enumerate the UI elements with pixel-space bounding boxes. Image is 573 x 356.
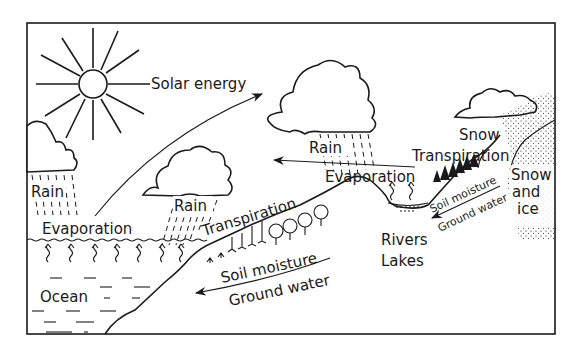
evaporation-ocean-label: Evaporation xyxy=(42,220,132,238)
transpiration-middle-label: Transpiration xyxy=(199,194,298,240)
snow-label: Snow xyxy=(459,126,499,144)
evaporation-lake-label: Evaporation xyxy=(325,168,415,186)
rain-right-label: Rain xyxy=(309,139,342,157)
lakes-label: Lakes xyxy=(381,252,424,270)
ocean-surface xyxy=(27,239,207,241)
cloud-upper xyxy=(268,60,376,134)
solar-energy-label: Solar energy xyxy=(151,75,246,93)
snow-and-ice-label-3: ice xyxy=(517,200,539,218)
sun-icon xyxy=(36,28,150,140)
transpiration-right-label: Transpiration xyxy=(411,147,509,165)
rain-left-label: Rain xyxy=(31,183,64,201)
water-cycle-diagram: Solar energy Rain Rain Rain xyxy=(0,0,573,356)
evaporation-flow-arrow xyxy=(274,160,415,167)
ocean-label: Ocean xyxy=(40,288,88,306)
evaporation-ocean-arrows xyxy=(45,244,184,262)
rivers-label: Rivers xyxy=(381,231,428,249)
snow-and-ice-label-1: Snow xyxy=(511,166,551,184)
snow-and-ice-label-2: and xyxy=(512,183,540,201)
cloud-middle xyxy=(143,146,232,196)
rain-middle-label: Rain xyxy=(174,197,207,215)
